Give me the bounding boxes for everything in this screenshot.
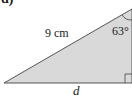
- hypotenuse-label: 9 cm: [45, 26, 69, 41]
- angle-label: 63°: [112, 24, 129, 39]
- base-label: d: [73, 83, 80, 99]
- triangle-diagram: [0, 0, 132, 100]
- right-triangle: [4, 9, 132, 83]
- part-label: d): [1, 0, 13, 7]
